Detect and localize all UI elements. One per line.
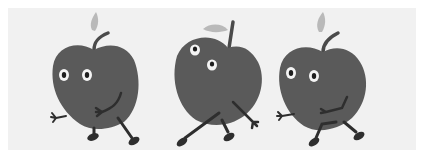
foot — [127, 135, 141, 147]
leaf-icon — [203, 25, 228, 33]
left-apple — [51, 12, 141, 147]
apples-illustration — [0, 0, 427, 157]
foot — [307, 136, 321, 149]
leg-front — [344, 122, 356, 132]
stem — [229, 22, 233, 48]
apple-body — [279, 47, 366, 130]
leaf-icon — [91, 12, 98, 31]
leaf-icon — [317, 12, 325, 32]
right-apple — [277, 12, 366, 148]
arm-left — [51, 113, 66, 122]
middle-apple — [174, 22, 261, 148]
